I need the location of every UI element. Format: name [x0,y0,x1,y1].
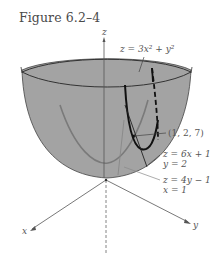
z-axis-label: z [101,27,107,37]
paraboloid-diagram: z x y z = 3x² + y² (1, 2, 7) z = 6x + 1 … [0,0,214,266]
trace-y2-label-eq: z = 6x + 1 [162,149,211,159]
y-axis-label: y [192,220,199,230]
point-label: (1, 2, 7) [168,128,204,138]
x-axis-label: x [22,226,27,236]
trace-x1-label-eq: z = 4y − 1 [162,175,211,185]
surface-label: z = 3x² + y² [119,44,175,54]
x-axis [32,180,106,229]
trace-x1-label-plane: x = 1 [163,185,187,195]
trace-y2-label-plane: y = 2 [162,159,187,169]
